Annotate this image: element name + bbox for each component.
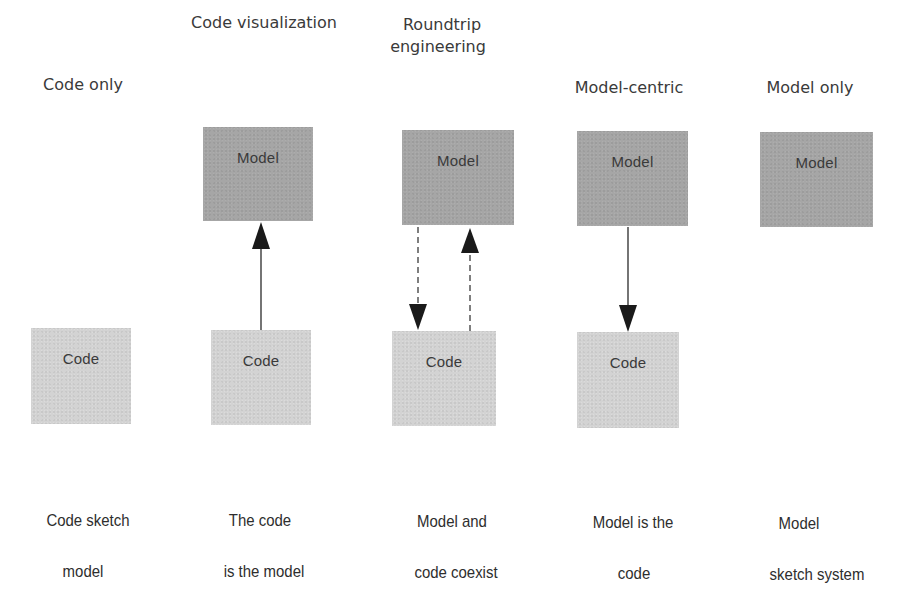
model-box-label: Model (796, 154, 838, 171)
caption-model-centric-line1: Model is the (593, 513, 674, 533)
caption-code-only-line1: Code sketch (46, 511, 129, 531)
caption-model-only-line1: Model (779, 514, 820, 534)
model-box-code-visualization: Model (203, 127, 313, 221)
heading-model-centric: Model-centric (575, 77, 684, 99)
code-box-model-centric: Code (577, 332, 679, 428)
code-box-code-visualization: Code (211, 330, 311, 425)
code-box-label: Code (610, 354, 647, 371)
caption-code-visualization-line2: is the model (224, 562, 305, 582)
caption-model-centric-line2: code (618, 564, 650, 584)
arrow-up-icon (252, 222, 270, 330)
model-box-model-centric: Model (577, 131, 688, 226)
caption-roundtrip-line1: Model and (417, 512, 487, 532)
caption-code-only-line2: model (63, 562, 104, 582)
heading-code-visualization: Code visualization (191, 12, 337, 34)
heading-line: Code visualization (191, 13, 337, 32)
code-box-label: Code (63, 350, 100, 367)
heading-line: engineering (390, 36, 486, 58)
model-box-label: Model (437, 152, 479, 169)
heading-roundtrip-engineering: Roundtrip engineering (390, 14, 486, 58)
model-box-label: Model (237, 149, 279, 166)
heading-line: Code only (43, 75, 123, 94)
code-box-label: Code (243, 352, 280, 369)
model-box-model-only: Model (760, 132, 873, 227)
code-box-code-only: Code (31, 328, 131, 424)
heading-model-only: Model only (767, 77, 854, 99)
model-box-roundtrip-engineering: Model (402, 130, 514, 225)
heading-line: Model-centric (575, 78, 684, 97)
arrow-down-dashed-icon (409, 227, 427, 330)
code-box-label: Code (426, 353, 463, 370)
caption-code-visualization-line1: The code (229, 511, 291, 531)
heading-line: Roundtrip (390, 14, 486, 36)
caption-roundtrip-line2: code coexist (414, 563, 497, 583)
heading-line: Model only (767, 78, 854, 97)
code-box-roundtrip-engineering: Code (392, 331, 496, 426)
arrow-down-icon (619, 227, 637, 332)
arrow-up-dashed-icon (461, 228, 479, 331)
heading-code-only: Code only (43, 74, 123, 96)
model-box-label: Model (612, 153, 654, 170)
caption-model-only-line2: sketch system (770, 565, 865, 585)
